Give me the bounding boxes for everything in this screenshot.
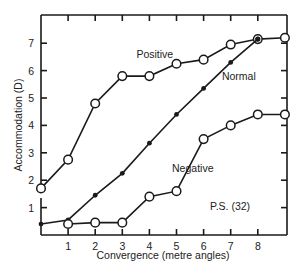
data-point <box>226 121 235 130</box>
data-point <box>253 110 262 119</box>
data-point <box>39 222 44 227</box>
y-tick-label: 1 <box>28 202 34 214</box>
data-point <box>37 184 46 193</box>
y-tick-label: 6 <box>28 65 34 77</box>
data-point <box>145 72 154 81</box>
accommodation-convergence-chart: 123456781234567 PositiveNormalNegative P… <box>0 0 304 274</box>
data-point <box>64 220 73 229</box>
y-tick-label: 2 <box>28 174 34 186</box>
y-axis-label: Accommodation (D) <box>12 79 24 172</box>
data-point <box>91 99 100 108</box>
data-point <box>226 40 235 49</box>
data-point <box>91 218 100 227</box>
data-point <box>281 33 290 42</box>
series-label-negative: Negative <box>172 162 214 174</box>
data-point <box>93 193 98 198</box>
y-tick-label: 3 <box>28 147 34 159</box>
data-point <box>64 155 73 164</box>
ps-annotation: P.S. (32) <box>210 200 250 212</box>
data-point <box>147 141 152 146</box>
data-point <box>255 36 260 41</box>
data-point <box>118 218 127 227</box>
data-point <box>172 187 181 196</box>
y-tick-label: 5 <box>28 92 34 104</box>
data-point <box>199 135 208 144</box>
data-point <box>174 112 179 117</box>
y-tick-label: 7 <box>28 37 34 49</box>
data-point <box>199 55 208 64</box>
series-lines <box>37 33 290 228</box>
series-label-normal: Normal <box>222 70 256 82</box>
data-point <box>145 192 154 201</box>
series-label-positive: Positive <box>136 48 173 60</box>
data-point <box>118 72 127 81</box>
data-point <box>228 60 233 65</box>
y-tick-label: 4 <box>28 119 34 131</box>
x-tick-label: 8 <box>255 240 261 252</box>
x-tick-label: 1 <box>65 240 71 252</box>
data-point <box>120 171 125 176</box>
data-point <box>172 59 181 68</box>
x-axis-label: Convergence (metre angles) <box>96 249 229 261</box>
data-point <box>281 110 290 119</box>
data-point <box>201 86 206 91</box>
